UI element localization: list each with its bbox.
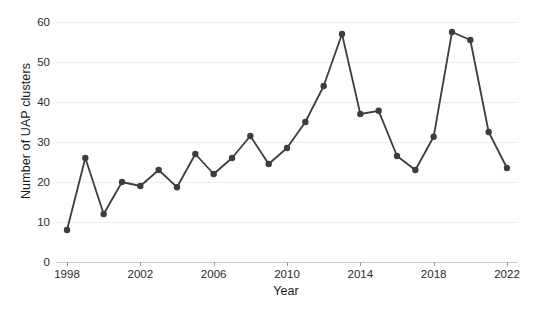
series-polyline xyxy=(67,32,507,230)
x-tick-label: 2022 xyxy=(477,268,535,280)
x-tick-mark xyxy=(214,262,215,266)
chart-figure: Number of UAP clusters 0102030405060 199… xyxy=(0,0,535,309)
y-tick-label: 50 xyxy=(6,56,50,68)
x-tick-mark xyxy=(360,262,361,266)
y-tick-label: 60 xyxy=(6,16,50,28)
x-tick-label: 2002 xyxy=(110,268,170,280)
y-axis-tick-labels: 0102030405060 xyxy=(0,14,50,262)
x-axis-label: Year xyxy=(56,284,516,298)
data-point xyxy=(82,155,88,161)
data-point xyxy=(375,108,381,114)
x-tick-label: 2014 xyxy=(330,268,390,280)
x-tick-label: 2018 xyxy=(404,268,464,280)
y-tick-label: 10 xyxy=(6,216,50,228)
data-point xyxy=(119,179,125,185)
x-tick-mark xyxy=(434,262,435,266)
data-point xyxy=(467,37,473,43)
x-tick-label: 2010 xyxy=(257,268,317,280)
data-point xyxy=(100,211,106,217)
data-point xyxy=(339,31,345,37)
data-point xyxy=(320,83,326,89)
data-point xyxy=(174,184,180,190)
data-point xyxy=(137,183,143,189)
data-point xyxy=(430,134,436,140)
data-point xyxy=(284,145,290,151)
plot-area xyxy=(56,14,518,262)
x-tick-label: 2006 xyxy=(184,268,244,280)
x-axis-tick-labels: 1998200220062010201420182022 xyxy=(56,262,518,284)
data-point xyxy=(192,151,198,157)
x-tick-label: 1998 xyxy=(37,268,97,280)
data-point xyxy=(394,153,400,159)
data-point xyxy=(504,165,510,171)
data-point xyxy=(64,227,70,233)
y-tick-label: 0 xyxy=(6,256,50,268)
data-point xyxy=(265,161,271,167)
x-tick-mark xyxy=(507,262,508,266)
data-point xyxy=(485,129,491,135)
x-tick-mark xyxy=(67,262,68,266)
data-point xyxy=(449,29,455,35)
y-tick-label: 40 xyxy=(6,96,50,108)
data-point xyxy=(357,111,363,117)
data-point xyxy=(412,167,418,173)
y-tick-label: 20 xyxy=(6,176,50,188)
x-tick-mark xyxy=(287,262,288,266)
series-markers xyxy=(64,29,510,233)
data-point xyxy=(247,133,253,139)
data-point xyxy=(155,167,161,173)
data-point xyxy=(302,119,308,125)
line-series xyxy=(56,14,518,262)
data-point xyxy=(229,155,235,161)
y-tick-label: 30 xyxy=(6,136,50,148)
x-tick-mark xyxy=(140,262,141,266)
data-point xyxy=(210,171,216,177)
